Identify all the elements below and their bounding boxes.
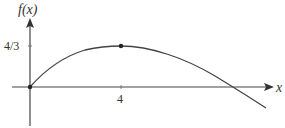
x-tick-label-4: 4 (117, 92, 123, 106)
x-axis-label: x (275, 80, 283, 95)
function-graph: f(x) x 4 4/3 (0, 0, 285, 128)
origin-point (28, 85, 32, 89)
y-tick-label-4-3: 4/3 (4, 39, 19, 53)
function-curve (30, 46, 266, 108)
maximum-point (119, 44, 123, 48)
y-axis-label: f(x) (18, 2, 38, 18)
